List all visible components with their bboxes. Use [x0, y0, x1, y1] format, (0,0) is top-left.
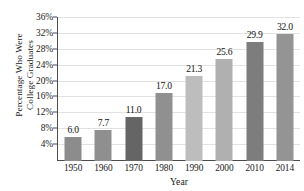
plot-area: Percentage Who Were College Graduates 4%…	[0, 0, 304, 191]
bar	[155, 93, 172, 161]
bar-group: 25.6	[209, 0, 239, 161]
bar-value-label: 11.0	[126, 104, 142, 115]
x-axis-tick-label: 1980	[155, 163, 173, 173]
bar	[65, 137, 82, 161]
bar-series: 6.07.711.017.021.325.629.932.0	[58, 0, 300, 161]
x-axis-ticks: 19501960197019801990200020102014	[58, 163, 300, 177]
bar-value-label: 7.7	[98, 117, 109, 128]
y-axis-tick-label: 28%	[36, 44, 53, 54]
bar-group: 6.0	[58, 0, 88, 161]
bar	[276, 34, 293, 161]
x-axis-tick-label: 1960	[94, 163, 112, 173]
bar-chart: Percentage Who Were College Graduates 4%…	[0, 0, 304, 191]
bar-group: 29.9	[240, 0, 270, 161]
y-axis-tick-label: 4%	[41, 139, 53, 149]
x-axis-tick-label: 2010	[245, 163, 263, 173]
bar-value-label: 32.0	[277, 21, 293, 32]
x-axis-tick-label: 1950	[64, 163, 82, 173]
y-axis-tick-label: 12%	[36, 107, 53, 117]
y-axis-title-line-1: Percentage Who Were	[14, 33, 24, 116]
y-axis-tick-label: 32%	[36, 28, 53, 38]
bar-value-label: 21.3	[186, 63, 202, 74]
y-axis-tick-label: 24%	[36, 60, 53, 70]
bar-value-label: 6.0	[67, 124, 78, 135]
bar-value-label: 17.0	[156, 80, 172, 91]
x-axis-title: Year	[58, 176, 300, 187]
y-axis-ticks: 4%8%12%16%20%24%28%32%36%	[24, 0, 56, 191]
bar	[95, 130, 112, 161]
bar-value-label: 25.6	[216, 46, 232, 57]
bar	[216, 59, 233, 161]
bar-group: 11.0	[119, 0, 149, 161]
y-axis-tick-label: 16%	[36, 91, 53, 101]
x-axis-tick-label: 2000	[215, 163, 233, 173]
x-axis-tick-label: 2014	[276, 163, 294, 173]
y-axis-tick-label: 8%	[41, 123, 53, 133]
bar	[246, 42, 263, 161]
bar	[125, 117, 142, 161]
y-axis-tick-label: 20%	[36, 76, 53, 86]
bar-group: 32.0	[270, 0, 300, 161]
y-axis-tick-label: 36%	[36, 12, 53, 22]
bar-value-label: 29.9	[247, 29, 263, 40]
bar-group: 21.3	[179, 0, 209, 161]
x-axis-tick-label: 1990	[185, 163, 203, 173]
bar	[186, 76, 203, 161]
bar-group: 17.0	[149, 0, 179, 161]
x-axis-tick-label: 1970	[124, 163, 142, 173]
bar-group: 7.7	[88, 0, 118, 161]
